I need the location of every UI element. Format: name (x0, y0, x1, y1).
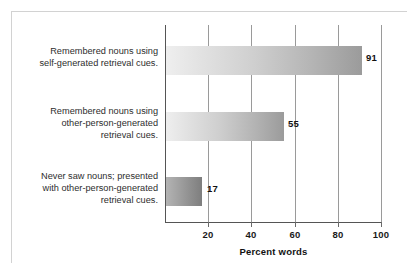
gridline-100 (381, 25, 382, 222)
bar-0 (165, 46, 362, 75)
category-label-1-line-2: retrieval cues. (12, 130, 158, 142)
tick-mark-20 (208, 222, 209, 227)
tick-label-80: 80 (323, 229, 353, 240)
category-label-2-line-1: with other-person-generated (12, 183, 158, 195)
bar-chart-figure: Remembered nouns using self-generated re… (0, 0, 407, 274)
y-axis-line (165, 25, 166, 223)
tick-label-100: 100 (366, 229, 396, 240)
category-label-0: Remembered nouns using self-generated re… (12, 46, 158, 70)
bar-1 (165, 112, 284, 141)
x-axis-title: Percent words (165, 246, 382, 257)
bar-value-2: 17 (207, 183, 218, 194)
x-axis-line (165, 222, 382, 223)
bar-value-0: 91 (366, 52, 377, 63)
category-label-0-line-0: Remembered nouns using (12, 46, 158, 58)
bar-value-1: 55 (288, 118, 299, 129)
category-label-2-line-2: retrieval cues. (12, 195, 158, 207)
category-label-1: Remembered nouns using other-person-gene… (12, 106, 158, 141)
plot-area (165, 25, 381, 222)
tick-mark-80 (338, 222, 339, 227)
category-label-1-line-0: Remembered nouns using (12, 106, 158, 118)
tick-label-40: 40 (236, 229, 266, 240)
tick-mark-100 (381, 222, 382, 227)
category-label-0-line-1: self-generated retrieval cues. (12, 58, 158, 70)
tick-mark-40 (251, 222, 252, 227)
category-label-2-line-0: Never saw nouns; presented (12, 171, 158, 183)
bar-2 (165, 177, 202, 206)
tick-label-60: 60 (280, 229, 310, 240)
tick-mark-60 (295, 222, 296, 227)
category-label-1-line-1: other-person-generated (12, 118, 158, 130)
category-label-2: Never saw nouns; presented with other-pe… (12, 171, 158, 206)
tick-label-20: 20 (193, 229, 223, 240)
